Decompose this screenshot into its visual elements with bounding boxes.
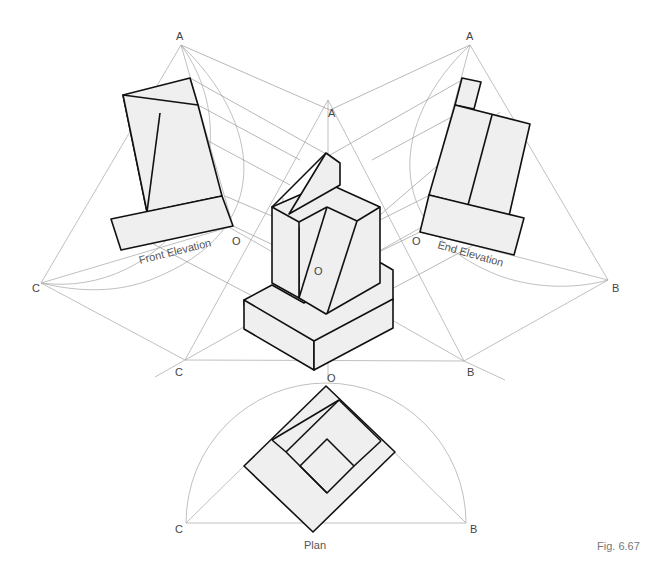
- label-b-right: B: [612, 282, 619, 294]
- label-b-center: B: [467, 366, 474, 378]
- front-elevation-view: [111, 78, 233, 250]
- label-o-plan: O: [327, 372, 336, 384]
- label-c-center: C: [175, 366, 183, 378]
- axonometric-projection-diagram: A A A C C C B B B O O O O Front Elevatio…: [0, 0, 664, 578]
- label-o-center: O: [314, 265, 323, 277]
- label-c-plan: C: [175, 523, 183, 535]
- plan-view: [244, 386, 395, 532]
- label-o-end: O: [412, 235, 421, 247]
- plan-label: Plan: [304, 539, 326, 551]
- label-a-left: A: [176, 30, 184, 42]
- label-o-front: O: [232, 235, 241, 247]
- label-a-right: A: [466, 30, 474, 42]
- figure-caption: Fig. 6.67: [597, 540, 640, 552]
- end-elevation-view: [420, 78, 530, 255]
- label-b-plan: B: [470, 523, 477, 535]
- label-a-center: A: [328, 107, 336, 119]
- label-c-left: C: [32, 282, 40, 294]
- isometric-view: [244, 153, 393, 370]
